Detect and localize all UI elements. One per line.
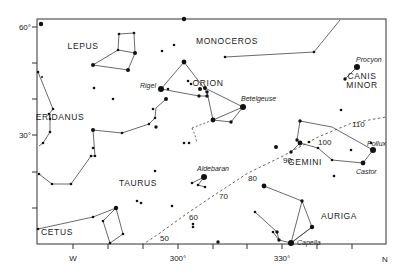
star-dot: [126, 68, 130, 72]
constellation-line: [118, 33, 135, 53]
star-dot: [37, 71, 40, 74]
star-dot: [41, 76, 43, 78]
star-dot: [192, 223, 195, 226]
star-dot: [295, 138, 298, 141]
star-dot: [92, 216, 95, 219]
star-dot: [164, 97, 168, 101]
star-dot: [114, 206, 118, 210]
star-dot: [38, 173, 41, 176]
ecliptic-label: 50: [160, 234, 169, 243]
star-dot: [122, 233, 125, 236]
star-dot: [117, 49, 120, 52]
labels: LEPUSMONOCEROSORIONCANISMINORERIDANUSGEM…: [36, 36, 387, 247]
star-dot: [154, 170, 157, 173]
star-dot: [354, 64, 360, 70]
star-dot: [49, 131, 52, 134]
star-dot: [205, 90, 208, 93]
constellation-line: [103, 208, 123, 243]
star-dot: [275, 230, 278, 233]
star-dot: [154, 117, 157, 120]
star-dot: [216, 240, 219, 243]
star-dot: [187, 80, 190, 83]
star-dot: [298, 141, 303, 146]
star-dot: [240, 104, 246, 110]
star-name-label: Betelgeuse: [241, 95, 276, 103]
x-tick-label: 300°: [170, 254, 187, 263]
star-dot: [148, 123, 151, 126]
star-name-label: Aldebaran: [196, 165, 229, 172]
star-dot: [140, 202, 143, 205]
star-dot: [211, 118, 216, 123]
constellation-lines: [38, 20, 373, 243]
y-tick-label: 30°: [19, 131, 31, 140]
star-dot: [340, 109, 343, 112]
star-dot: [93, 87, 96, 90]
ecliptic-label: 60: [189, 213, 198, 222]
star-dot: [91, 128, 95, 132]
star-dot: [154, 125, 157, 128]
star-dot: [313, 51, 316, 54]
star-dot: [310, 225, 314, 229]
star-dot: [161, 50, 164, 53]
star-dot: [112, 98, 115, 101]
star-dot: [254, 211, 257, 214]
x-axis-end-label: N: [382, 255, 388, 264]
star-dot: [277, 238, 280, 241]
star-dot: [262, 184, 267, 189]
star-dot: [331, 159, 334, 162]
star-dot: [136, 200, 139, 203]
chart-frame: W300°330°N60°30°: [19, 19, 388, 264]
star-dot: [298, 119, 301, 122]
constellation-label: TAURUS: [119, 178, 157, 188]
ecliptic-line: 5060708090100110: [142, 117, 386, 245]
star-dot: [173, 44, 176, 47]
star-dot: [121, 132, 124, 135]
star-chart: W300°330°N60°30° 5060708090100110 LEPUSM…: [0, 0, 408, 279]
star-dot: [308, 141, 311, 144]
star-dot: [272, 231, 275, 234]
x-tick-label: 330°: [274, 254, 291, 263]
constellation-label: AURIGA: [321, 211, 357, 221]
constellation-label: ERIDANUS: [36, 112, 85, 122]
star-dot: [37, 228, 40, 231]
star-dot: [51, 183, 54, 186]
star-dot: [182, 17, 186, 21]
star-dot: [152, 108, 155, 111]
constellation-line: [264, 186, 312, 243]
star-dot: [300, 199, 303, 202]
star-dot: [133, 51, 137, 55]
star-dot: [350, 149, 353, 152]
star-dot: [361, 161, 366, 166]
star-dot: [224, 56, 227, 59]
star-dot: [70, 183, 73, 186]
star-dot: [109, 242, 112, 245]
star-dot: [183, 142, 186, 145]
constellation-line: [291, 201, 302, 243]
ecliptic-label: 100: [318, 138, 332, 147]
constellation-dashed-line: [192, 128, 197, 143]
ecliptic-path: [142, 117, 386, 245]
star-dot: [92, 147, 95, 150]
constellation-label: ORION: [193, 78, 224, 88]
star-dot: [52, 108, 55, 111]
constellation-line: [291, 121, 300, 152]
star-dot: [91, 63, 95, 67]
star-dot: [167, 88, 170, 91]
constellation-label: GEMINI: [288, 157, 322, 167]
constellation-dashed-line: [192, 120, 213, 128]
constellation-label: LEPUS: [68, 41, 99, 51]
ecliptic-label: 110: [352, 120, 365, 129]
star-dot: [42, 142, 45, 145]
star-dot: [201, 174, 207, 180]
ecliptic-label: 80: [248, 174, 257, 183]
star-dot: [191, 182, 194, 185]
star-dot: [197, 184, 200, 187]
star-dot: [188, 142, 191, 145]
star-name-label: Pollux: [367, 140, 387, 147]
constellation-line: [38, 72, 53, 146]
star-dot: [288, 240, 294, 246]
star-dot: [133, 32, 136, 35]
constellation-line: [93, 50, 135, 70]
star-dot: [229, 120, 232, 123]
star-dot: [205, 94, 208, 97]
